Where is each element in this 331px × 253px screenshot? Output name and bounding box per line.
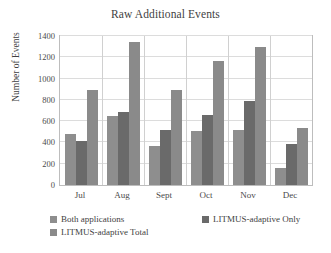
bar[interactable] [233, 130, 244, 185]
y-tick-label: 1200 [9, 53, 55, 62]
plot-area [59, 35, 313, 186]
x-tick-label-dec: Dec [283, 190, 298, 200]
bar[interactable] [118, 112, 129, 185]
y-tick-label: 400 [9, 138, 55, 147]
bar-group-dec [270, 36, 312, 185]
x-tick-label-aug: Aug [114, 190, 130, 200]
bar-group-aug [102, 36, 144, 185]
bar-group-jul [60, 36, 102, 185]
bar[interactable] [244, 101, 255, 185]
bar[interactable] [160, 130, 171, 185]
legend-label: LITMUS-adaptive Total [61, 228, 148, 237]
bar-group-nov [228, 36, 270, 185]
y-tick-label: 1400 [9, 32, 55, 41]
legend-swatch-icon [50, 216, 57, 223]
y-tick-label: 1000 [9, 74, 55, 83]
y-tick-label: 0 [9, 181, 55, 190]
bar[interactable] [213, 61, 224, 185]
bar[interactable] [65, 134, 76, 185]
legend-label: LITMUS-adaptive Only [213, 215, 300, 224]
bar[interactable] [129, 42, 140, 185]
bar[interactable] [171, 90, 182, 185]
y-tick-label: 200 [9, 159, 55, 168]
bar-chart: Raw Additional Events Number of Events 0… [0, 0, 331, 253]
bar[interactable] [286, 144, 297, 185]
chart-legend: Both applicationsLITMUS-adaptive OnlyLIT… [50, 213, 320, 239]
x-tick-label-jul: Jul [75, 190, 86, 200]
legend-item-0[interactable]: Both applications [50, 215, 202, 224]
y-tick-label: 800 [9, 96, 55, 105]
y-tick-label: 600 [9, 117, 55, 126]
bar[interactable] [149, 146, 160, 185]
x-axis-ticks: JulAugSeptOctNovDec [59, 190, 313, 204]
bar[interactable] [107, 116, 118, 185]
x-tick-label-nov: Nov [240, 190, 256, 200]
bar[interactable] [297, 128, 308, 185]
bar-group-oct [186, 36, 228, 185]
legend-row: LITMUS-adaptive Total [50, 226, 320, 239]
legend-row: Both applicationsLITMUS-adaptive Only [50, 213, 320, 226]
legend-label: Both applications [61, 215, 124, 224]
legend-swatch-icon [50, 229, 57, 236]
chart-title: Raw Additional Events [0, 8, 331, 20]
bar[interactable] [191, 131, 202, 185]
bar[interactable] [87, 90, 98, 185]
bar[interactable] [76, 141, 87, 185]
bar[interactable] [202, 115, 213, 185]
y-axis-ticks: 0200400600800100012001400 [7, 35, 55, 186]
x-tick-label-oct: Oct [200, 190, 213, 200]
bar-group-sept [144, 36, 186, 185]
x-tick-label-sept: Sept [156, 190, 172, 200]
legend-item-2[interactable]: LITMUS-adaptive Total [50, 228, 148, 237]
bar[interactable] [255, 47, 266, 185]
legend-item-1[interactable]: LITMUS-adaptive Only [202, 215, 300, 224]
legend-swatch-icon [202, 216, 209, 223]
bar[interactable] [275, 168, 286, 185]
